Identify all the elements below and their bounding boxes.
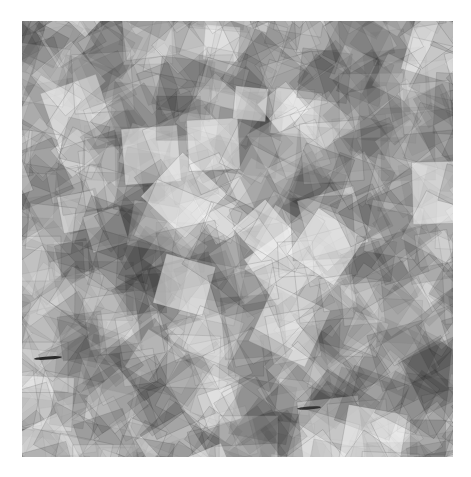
square-mosaic-pattern (22, 21, 453, 457)
mosaic-svg (22, 21, 453, 457)
